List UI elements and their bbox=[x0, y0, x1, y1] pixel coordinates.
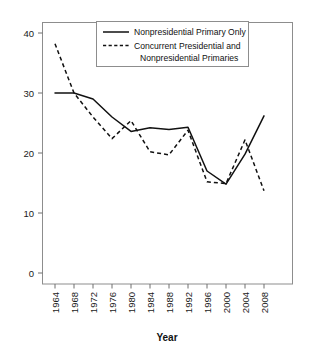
x-tick-label: 1980 bbox=[126, 292, 137, 313]
x-tick-label: 2004 bbox=[240, 292, 251, 313]
legend-label-0: Nonpresidential Primary Only bbox=[134, 27, 246, 37]
y-tick-label: 10 bbox=[23, 208, 34, 219]
line-chart: 40 30 20 10 0 1964 1968 1972 1976 bbox=[0, 0, 310, 356]
x-tick-label: 2008 bbox=[259, 292, 270, 313]
x-tick-label: 2000 bbox=[221, 292, 232, 313]
x-tick-label: 1972 bbox=[88, 292, 99, 313]
chart-figure: 40 30 20 10 0 1964 1968 1972 1976 bbox=[0, 0, 310, 356]
x-tick-label: 1992 bbox=[183, 292, 194, 313]
y-tick-label: 30 bbox=[23, 88, 34, 99]
x-tick-label: 1976 bbox=[107, 292, 118, 313]
y-tick-label: 0 bbox=[29, 268, 34, 279]
legend-label-1: Concurrent Presidential and bbox=[134, 41, 241, 51]
legend-label-2: Nonpresidential Primaries bbox=[140, 53, 238, 63]
y-tick-label: 20 bbox=[23, 148, 34, 159]
chart-legend: Nonpresidential Primary Only Concurrent … bbox=[97, 22, 249, 67]
x-tick-label: 1988 bbox=[164, 292, 175, 313]
y-tick-label: 40 bbox=[23, 28, 34, 39]
x-tick-label: 1964 bbox=[50, 292, 61, 313]
x-tick-label: 1996 bbox=[202, 292, 213, 313]
x-tick-label: 1984 bbox=[145, 292, 156, 313]
x-tick-label: 1968 bbox=[69, 292, 80, 313]
x-axis-title: Year bbox=[156, 332, 177, 343]
